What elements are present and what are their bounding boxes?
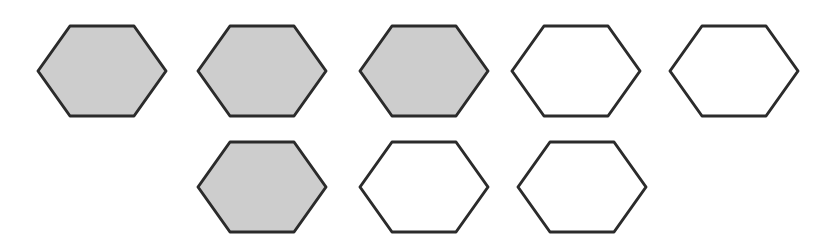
unshaded-hexagon-r2-2 <box>358 140 490 234</box>
shaded-hexagon-r1-3 <box>358 24 490 118</box>
unshaded-hexagon-r2-3 <box>516 140 648 234</box>
shaded-hexagon-r1-1 <box>36 24 168 118</box>
unshaded-hexagon-r1-5 <box>668 24 800 118</box>
unshaded-hexagon-r1-4 <box>510 24 642 118</box>
hexagon-diagram <box>0 0 827 250</box>
shaded-hexagon-r2-1 <box>196 140 328 234</box>
shaded-hexagon-r1-2 <box>196 24 328 118</box>
